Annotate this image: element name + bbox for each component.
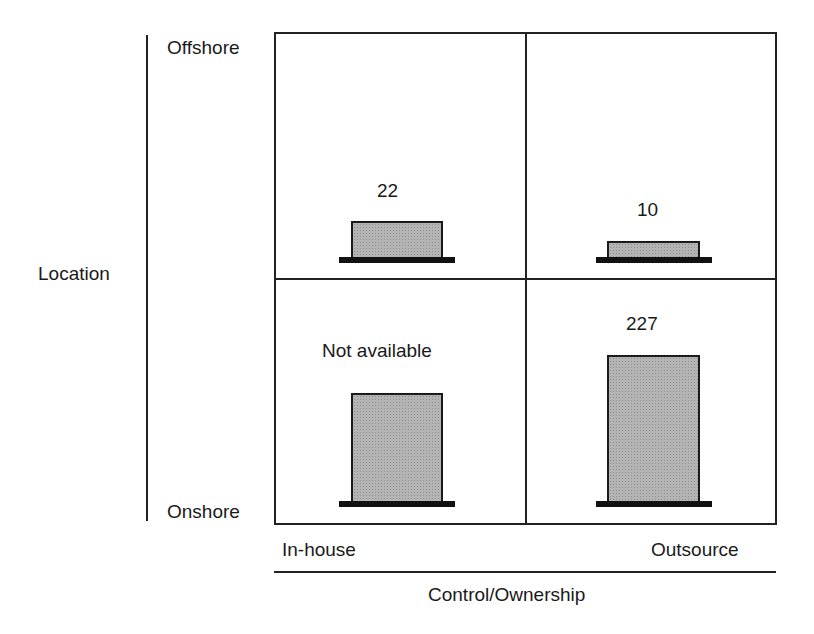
value-onshore-outsource: 227 [626,314,658,333]
bar-onshore-inhouse [351,393,443,503]
grid-horizontal-divider [276,278,775,280]
y-label-onshore: Onshore [167,502,240,521]
x-axis-line [274,571,776,573]
value-offshore-outsource: 10 [637,200,658,219]
value-offshore-inhouse: 22 [377,181,398,200]
value-onshore-inhouse: Not available [322,341,432,360]
base-onshore-inhouse [339,501,455,507]
base-offshore-outsource [596,257,712,263]
y-axis-line [146,35,148,521]
bar-onshore-outsource [607,355,700,503]
x-axis-title: Control/Ownership [428,585,585,604]
x-label-inhouse: In-house [282,540,356,559]
base-onshore-outsource [596,501,712,507]
matrix-grid [274,32,777,525]
y-axis-title: Location [38,264,110,283]
base-offshore-inhouse [339,257,455,263]
bar-offshore-inhouse [351,221,443,259]
x-label-outsource: Outsource [651,540,739,559]
y-label-offshore: Offshore [167,38,240,57]
